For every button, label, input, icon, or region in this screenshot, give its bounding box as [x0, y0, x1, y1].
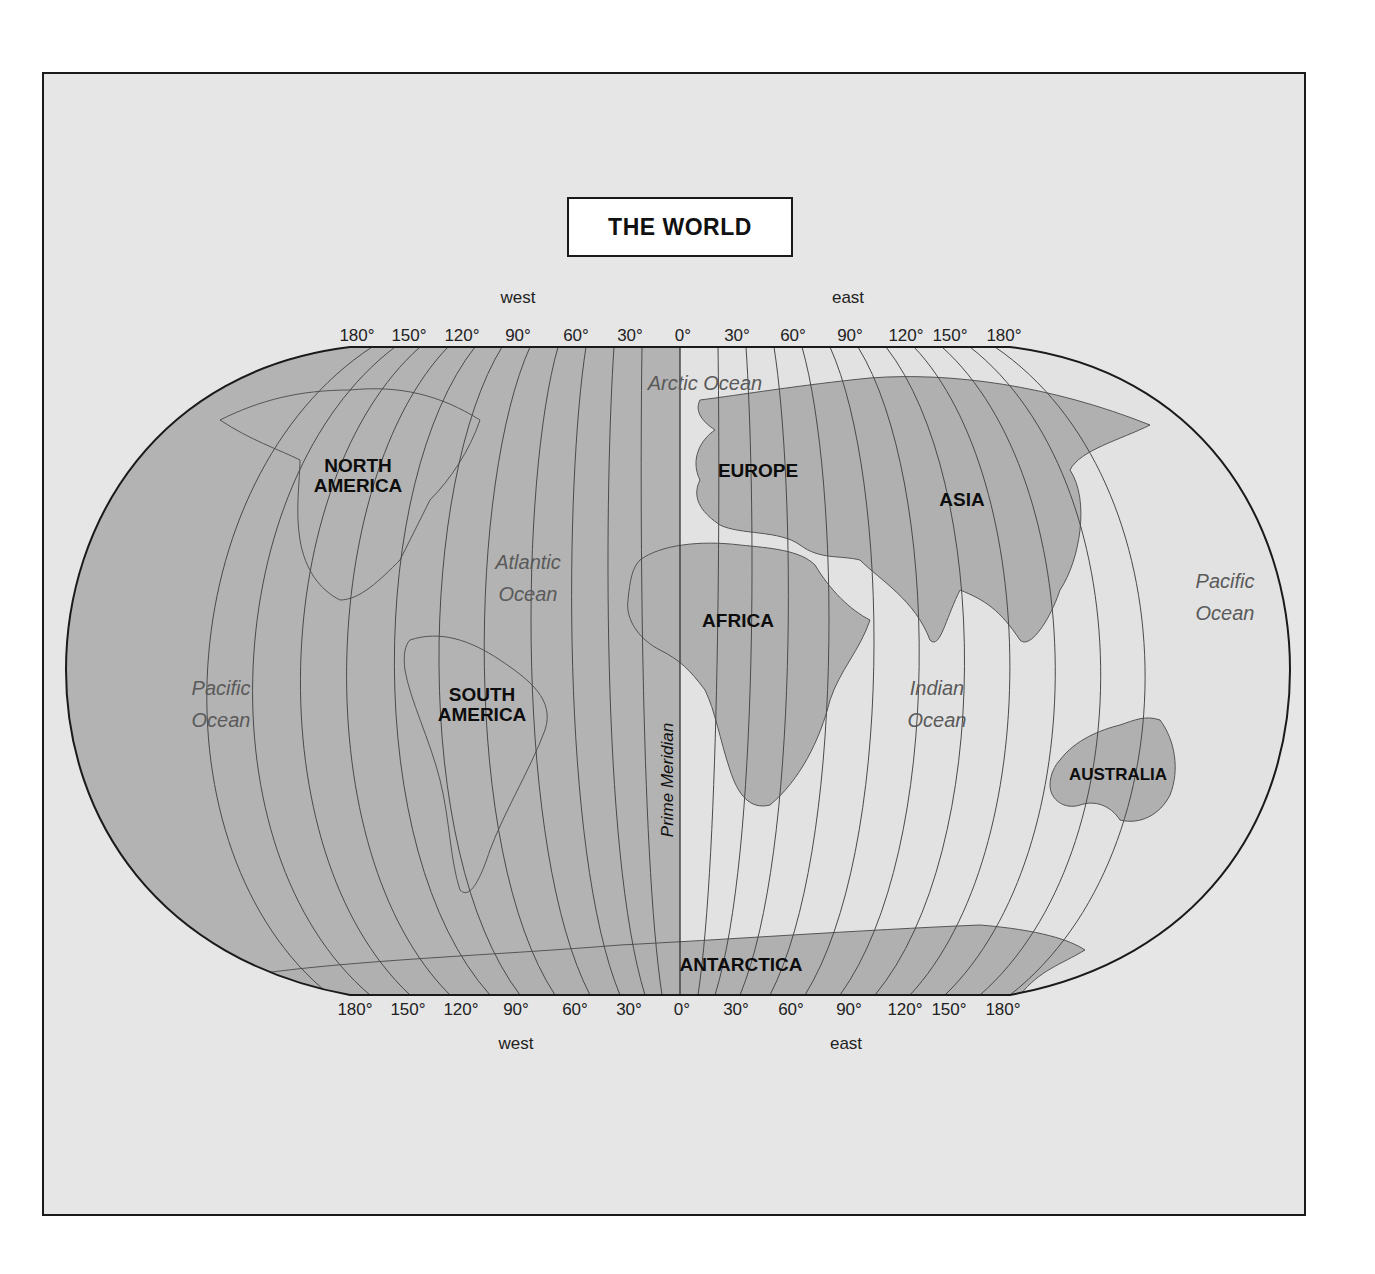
tick-bottom: 150°: [390, 1000, 425, 1020]
ocean-label-arctic: Arctic Ocean: [648, 372, 762, 394]
prime-meridian-label: Prime Meridian: [658, 723, 678, 837]
ocean-label-pacific-west: Pacific Ocean: [192, 672, 251, 736]
continent-label-australia: AUSTRALIA: [1069, 766, 1167, 784]
tick-bottom: 90°: [836, 1000, 862, 1020]
tick-bottom: 60°: [778, 1000, 804, 1020]
tick-bottom: 60°: [562, 1000, 588, 1020]
world-map-graphic: [0, 0, 1375, 1274]
continent-label-north-america: NORTH AMERICA: [314, 456, 403, 496]
tick-bottom: 180°: [337, 1000, 372, 1020]
tick-bottom: 120°: [887, 1000, 922, 1020]
continent-label-antarctica: ANTARCTICA: [679, 955, 802, 975]
tick-bottom: 150°: [931, 1000, 966, 1020]
west-label-bottom: west: [499, 1034, 534, 1054]
continent-label-africa: AFRICA: [702, 611, 774, 631]
east-label-bottom: east: [830, 1034, 862, 1054]
ocean-label-atlantic: Atlantic Ocean: [495, 546, 561, 610]
western-hemisphere-shading: [0, 340, 680, 1010]
tick-bottom: 30°: [616, 1000, 642, 1020]
tick-bottom: 120°: [443, 1000, 478, 1020]
ocean-label-indian: Indian Ocean: [908, 672, 967, 736]
tick-bottom: 30°: [723, 1000, 749, 1020]
continent-label-south-america: SOUTH AMERICA: [438, 685, 527, 725]
continent-label-europe: EUROPE: [718, 461, 798, 481]
tick-bottom: 180°: [985, 1000, 1020, 1020]
ocean-label-pacific-east: Pacific Ocean: [1196, 565, 1255, 629]
tick-bottom: 90°: [503, 1000, 529, 1020]
continent-label-asia: ASIA: [939, 490, 984, 510]
tick-bottom: 0°: [674, 1000, 690, 1020]
